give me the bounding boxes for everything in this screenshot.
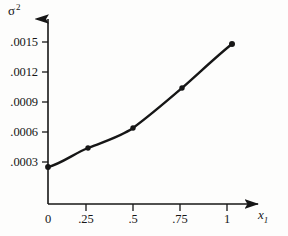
y-tick-label-0006: .0006 <box>0 125 38 140</box>
data-point <box>130 125 135 130</box>
data-point <box>229 41 235 47</box>
y-axis-symbol: σ <box>8 3 15 18</box>
variance-line-chart: σ2 x1 .0015 .0012 .0009 .0006 .0003 0 .2… <box>0 0 288 236</box>
plot-area <box>0 0 288 236</box>
x-tick-label-1: 1 <box>210 212 244 227</box>
y-axis-ticks <box>42 42 48 162</box>
x-axis-subscript: 1 <box>264 215 269 225</box>
x-tick-label-0: 0 <box>31 212 65 227</box>
y-axis-title: σ2 <box>8 2 21 19</box>
y-tick-label-0012: .0012 <box>0 65 38 80</box>
data-point-markers <box>45 41 235 170</box>
y-tick-label-0003: .0003 <box>0 155 38 170</box>
y-axis-exponent: 2 <box>16 2 21 12</box>
x-tick-label-075: .75 <box>163 212 197 227</box>
x-tick-label-025: .25 <box>69 212 103 227</box>
y-tick-label-0015: .0015 <box>0 35 38 50</box>
x-axis-title: x1 <box>258 207 268 225</box>
y-tick-label-0009: .0009 <box>0 95 38 110</box>
x-axis-ticks <box>86 204 227 211</box>
data-curve <box>48 44 232 167</box>
data-point <box>179 85 184 90</box>
data-point <box>45 164 51 170</box>
x-tick-label-05: .5 <box>116 212 150 227</box>
data-point <box>85 145 90 150</box>
